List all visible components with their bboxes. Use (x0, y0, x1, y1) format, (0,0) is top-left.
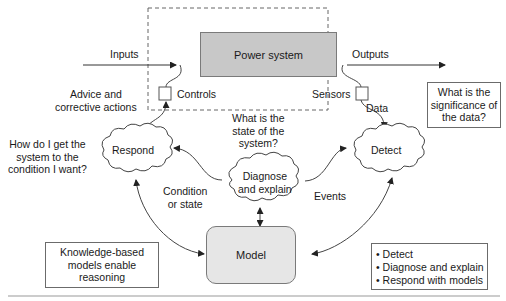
condition-line-2: or state (163, 198, 207, 211)
model-box: Model (206, 226, 296, 284)
diagnose-cloud-label: Diagnose and explain (238, 170, 292, 195)
detect-cloud-label: Detect (371, 144, 401, 157)
power-system-label: Power system (234, 49, 303, 61)
inputs-label: Inputs (110, 48, 139, 61)
diagnose-to-detect-arrow (305, 148, 346, 181)
bullet-text: Detect (383, 248, 413, 260)
condition-line-1: Condition (163, 185, 207, 198)
bullet-item: • Detect (376, 248, 487, 261)
advice-label: Advice and corrective actions (55, 88, 137, 113)
diagnose-to-respond-arrow (174, 148, 222, 180)
power-system-box: Power system (200, 32, 337, 77)
bullet-item: • Diagnose and explain (376, 261, 487, 274)
respond-q-line-3: condition I want? (8, 163, 87, 176)
data-label: Data (366, 102, 388, 115)
sensors-label: Sensors (312, 88, 351, 101)
condition-label: Condition or state (163, 185, 207, 210)
respond-cloud-label: Respond (112, 144, 154, 157)
model-label: Model (236, 249, 266, 261)
controls-box (159, 87, 171, 100)
sensors-box (356, 87, 368, 100)
significance-line-2: significance of (431, 99, 498, 112)
respond-q-line-2: system to the (8, 151, 87, 164)
respond-question: How do I get the system to the condition… (8, 138, 87, 176)
respond-q-line-1: How do I get the (8, 138, 87, 151)
events-label: Events (314, 190, 346, 203)
knowledge-box: Knowledge-based models enable reasoning (45, 242, 159, 288)
knowledge-line-2: models enable (60, 259, 144, 272)
state-line-2: state of the (232, 125, 285, 138)
bullet-item: • Respond with models (376, 274, 487, 287)
outputs-label: Outputs (352, 48, 389, 61)
knowledge-line-1: Knowledge-based (60, 246, 144, 259)
capabilities-list: • Detect • Diagnose and explain • Respon… (371, 243, 488, 290)
sensors-wire (342, 65, 361, 87)
significance-line-3: the data? (431, 111, 498, 124)
state-line-3: system? (232, 137, 285, 150)
state-question: What is the state of the system? (232, 112, 285, 150)
bullet-text: Respond with models (383, 274, 483, 286)
diagnose-line-2: and explain (238, 183, 292, 196)
controls-label: Controls (177, 88, 216, 101)
knowledge-line-3: reasoning (60, 271, 144, 284)
state-line-1: What is the (232, 112, 285, 125)
significance-line-1: What is the (431, 86, 498, 99)
advice-line-2: corrective actions (55, 101, 137, 114)
diagnose-line-1: Diagnose (238, 170, 292, 183)
controls-wire (166, 65, 181, 87)
bullet-text: Diagnose and explain (383, 261, 484, 273)
significance-box: What is the significance of the data? (427, 82, 501, 128)
advice-line-1: Advice and (55, 88, 137, 101)
